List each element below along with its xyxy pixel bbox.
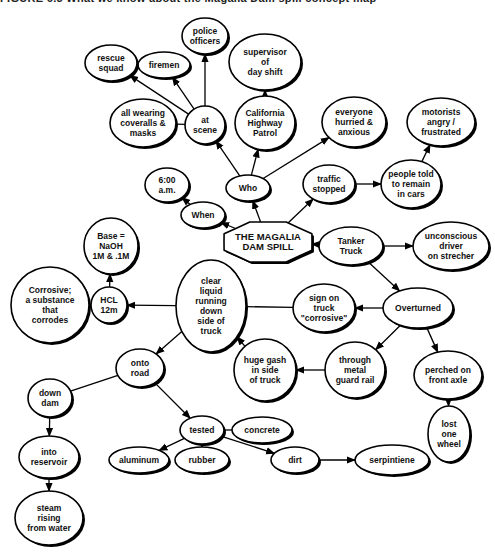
node-when: When: [181, 202, 227, 230]
edge-sign-to-clear: [246, 307, 293, 308]
edge-tanker-to-overturned: [368, 262, 399, 291]
node-label: When: [191, 210, 214, 220]
edge-spill-to-traffic: [287, 199, 313, 224]
node-who: Who: [226, 175, 272, 203]
node-label: firemen: [149, 60, 180, 70]
edge-who-to-atscene: [216, 141, 240, 176]
node-reservoir: intoreservoir: [19, 436, 81, 480]
node-label: HCL12m: [100, 295, 118, 315]
node-spill: THE MAGALIADAM SPILL: [224, 222, 314, 264]
node-label: rescuesquad: [97, 53, 125, 73]
node-label: perched onfront axle: [425, 365, 471, 385]
node-label: tested: [189, 425, 214, 435]
edge-clear-to-onto: [156, 331, 182, 353]
node-label: TankerTruck: [337, 236, 365, 256]
edge-overturned-to-through: [376, 325, 401, 349]
node-aluminum: aluminum: [109, 447, 171, 475]
node-atscene: atscene: [185, 106, 227, 146]
node-serpentine: serpintiene: [355, 445, 431, 477]
edge-onto-to-downdam: [71, 375, 118, 391]
node-firemen: firemen: [138, 52, 192, 80]
node-overturned: Overturned: [383, 288, 455, 330]
node-label: rubber: [189, 455, 217, 465]
node-sign: sign ontruck"corrosive": [293, 284, 357, 334]
node-label: dirt: [288, 455, 302, 465]
node-steam: steamrisingfrom water: [15, 491, 85, 547]
edge-people-to-motorists: [422, 145, 430, 162]
edge-who-to-chp: [251, 149, 258, 175]
node-motorists: motoristsangry /frustrated: [407, 98, 477, 148]
edge-spill-to-who: [253, 201, 261, 223]
node-tested: tested: [180, 416, 226, 446]
node-six: 6:00a.m.: [145, 168, 191, 204]
node-corrosive: Corrosive;a substancethatcorrodes: [11, 267, 91, 345]
node-label: trafficstopped: [312, 174, 345, 194]
node-label: motoristsangry /frustrated: [421, 107, 461, 137]
node-label: concrete: [244, 425, 280, 435]
node-through: throughmetalguard rail: [325, 342, 387, 400]
node-label: everyonehurried &anxious: [335, 107, 373, 137]
edge-tested-to-aluminum: [159, 438, 184, 450]
concept-map: THE MAGALIADAM SPILLWhoWhen6:00a.m.atsce…: [0, 0, 495, 559]
node-police: policeofficers: [182, 18, 230, 56]
node-supervisor: supervisorofday shift: [229, 34, 303, 92]
node-downdam: downdam: [28, 379, 74, 419]
node-dirt: dirt: [271, 447, 321, 475]
node-coveralls: all wearingcoveralls &masks: [110, 99, 178, 149]
node-unconscious: unconsciousdriveron strecher: [413, 222, 491, 272]
node-label: aluminum: [119, 455, 160, 465]
node-tanker: TankerTruck: [319, 227, 385, 267]
node-chp: CaliforniaHighwayPatrol: [235, 96, 297, 152]
edge-onto-to-tested: [155, 383, 190, 418]
node-rubber: rubber: [175, 447, 231, 475]
node-label: THE MAGALIADAM SPILL: [235, 231, 301, 252]
node-label: ontoroad: [131, 358, 149, 378]
node-label: Overturned: [395, 303, 441, 313]
edge-overturned-to-perched: [427, 327, 438, 352]
node-perched: perched onfront axle: [414, 351, 484, 401]
node-people: people toldto remainin cars: [381, 160, 443, 210]
node-base: Base =NaOH1M & .1M: [84, 218, 140, 276]
node-label: serpintiene: [369, 455, 415, 465]
node-traffic: trafficstopped: [303, 165, 357, 205]
node-onto: ontoroad: [116, 349, 166, 389]
edge-atscene-to-firemen: [172, 77, 194, 109]
node-rescue: rescuesquad: [85, 45, 139, 83]
node-everyone: everyonehurried &anxious: [322, 97, 388, 149]
node-hcl: HCL12m: [91, 287, 129, 325]
node-label: 6:00a.m.: [158, 175, 175, 195]
node-gash: huge gashin sideof truck: [234, 339, 298, 403]
node-clear: clearliquidrunningdownside oftruck: [176, 260, 248, 354]
node-concrete: concrete: [232, 417, 294, 445]
node-lostwheel: lostonewheel: [428, 406, 472, 464]
nodes-layer: THE MAGALIADAM SPILLWhoWhen6:00a.m.atsce…: [11, 18, 491, 547]
node-label: Who: [239, 183, 257, 193]
node-label: policeofficers: [190, 26, 221, 46]
node-label: downdam: [39, 388, 61, 408]
